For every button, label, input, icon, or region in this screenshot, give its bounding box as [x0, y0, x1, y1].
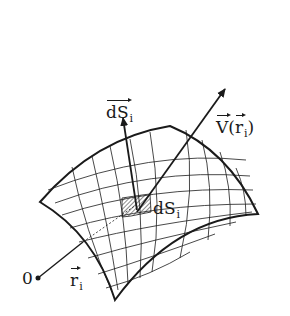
position-vector-label: ri [70, 272, 83, 289]
field-vector-base: V [216, 119, 228, 136]
field-vector-arg-subscript: i [244, 127, 248, 140]
field-vector-label: V(ri) [216, 119, 254, 136]
surface-element-subscript: i [177, 208, 181, 221]
normal-vector-base: dS [106, 104, 129, 121]
surface-element-base: dS [153, 198, 176, 218]
field-vector-paren-close: ) [248, 117, 255, 137]
position-vector-subscript: i [79, 280, 83, 293]
field-vector-arg: r [235, 119, 243, 136]
surface-diagram [0, 0, 290, 316]
field-vector-paren-open: ( [228, 117, 235, 137]
normal-vector-label: dSi [106, 104, 133, 121]
origin-label: 0 [22, 270, 33, 287]
surface-element-label: dSi [153, 200, 180, 217]
origin-dot [36, 276, 41, 281]
position-vector-base: r [70, 272, 78, 289]
normal-vector-subscript: i [130, 112, 134, 125]
